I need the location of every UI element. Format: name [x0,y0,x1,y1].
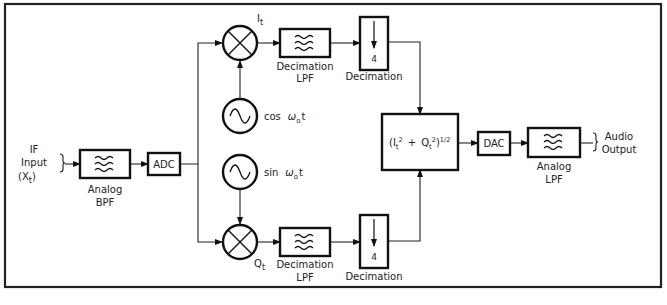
if-input-label: IF Input (Xt) [18,144,47,185]
magnitude-block: (It2+Qt2)1/2 [382,114,458,170]
analog-lpf-block: Analog LPF [528,128,580,185]
i-mixer: It [223,13,263,60]
svg-text:4: 4 [371,252,377,262]
cos-oscillator: cosωot [223,99,306,133]
q-mixer: Qt [223,225,265,272]
svg-text:4: 4 [371,54,377,64]
svg-text:DAC: DAC [483,138,504,149]
svg-text:Decimation: Decimation [276,61,333,72]
svg-text:Decimation: Decimation [345,271,402,282]
audio-output-label: Audio Output [602,131,637,155]
decimation-lpf-top: Decimation LPF [276,29,333,84]
decimation-lpf-bottom: Decimation LPF [276,228,333,283]
svg-text:BPF: BPF [96,197,115,208]
svg-text:Input: Input [21,157,47,168]
svg-text:Audio: Audio [605,131,633,142]
svg-text:cosωot: cosωot [264,111,306,125]
input-brace-icon [60,154,65,172]
svg-text:LPF: LPF [545,174,563,185]
dac-block: DAC [478,132,510,155]
svg-text:Qt: Qt [254,258,265,272]
svg-text:LPF: LPF [296,272,314,283]
svg-text:IF: IF [30,144,39,155]
svg-text:Decimation: Decimation [345,71,402,82]
decimation-bottom: 4 Decimation [345,215,402,282]
svg-text:ADC: ADC [153,159,175,170]
decimation-top: 4 Decimation [345,17,402,82]
svg-text:Decimation: Decimation [276,259,333,270]
svg-text:Output: Output [602,144,637,155]
svg-text:LPF: LPF [296,73,314,84]
analog-bpf-block: Analog BPF [80,150,130,208]
sin-oscillator: sinωot [223,155,303,189]
svg-text:Analog: Analog [88,184,123,195]
adc-block: ADC [148,153,180,175]
output-brace-icon [593,133,598,151]
svg-text:(Xt): (Xt) [18,171,36,185]
block-diagram: IF Input (Xt) Analog BPF ADC It cosωot s… [0,0,667,305]
svg-text:sinωot: sinωot [264,167,303,181]
svg-text:Analog: Analog [537,161,572,172]
svg-text:It: It [257,13,263,27]
